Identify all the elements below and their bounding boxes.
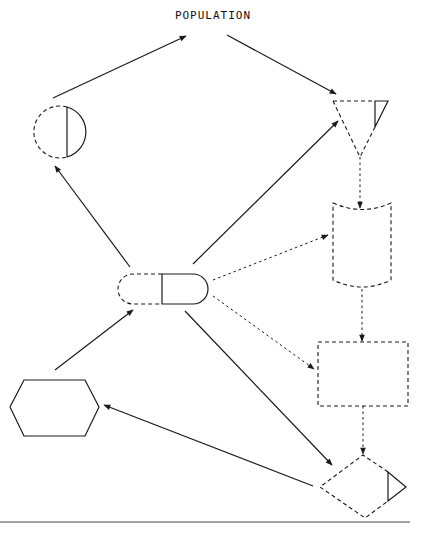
process-rectangle-node xyxy=(318,342,408,406)
inverted-triangle-node xyxy=(333,101,388,157)
edges xyxy=(53,35,363,486)
edge-hexagon-to-terminal xyxy=(55,310,133,370)
decision-diamond-node xyxy=(320,455,406,518)
edge-diamond-to-hexagon xyxy=(104,405,313,486)
flowchart-diagram xyxy=(0,0,422,537)
edge-terminal-to-stored-data xyxy=(213,235,328,280)
stored-data-node xyxy=(333,203,391,287)
edge-population-to-triangle xyxy=(227,35,336,94)
edge-circle-to-population xyxy=(53,36,186,98)
edge-terminal-to-circle xyxy=(55,166,130,267)
circle-node xyxy=(34,106,86,158)
edge-terminal-to-diamond xyxy=(185,311,332,465)
terminator-node xyxy=(118,274,208,304)
hexagon-node xyxy=(10,380,99,436)
edge-terminal-to-rectangle xyxy=(213,296,314,369)
edge-terminal-to-triangle xyxy=(193,121,338,264)
